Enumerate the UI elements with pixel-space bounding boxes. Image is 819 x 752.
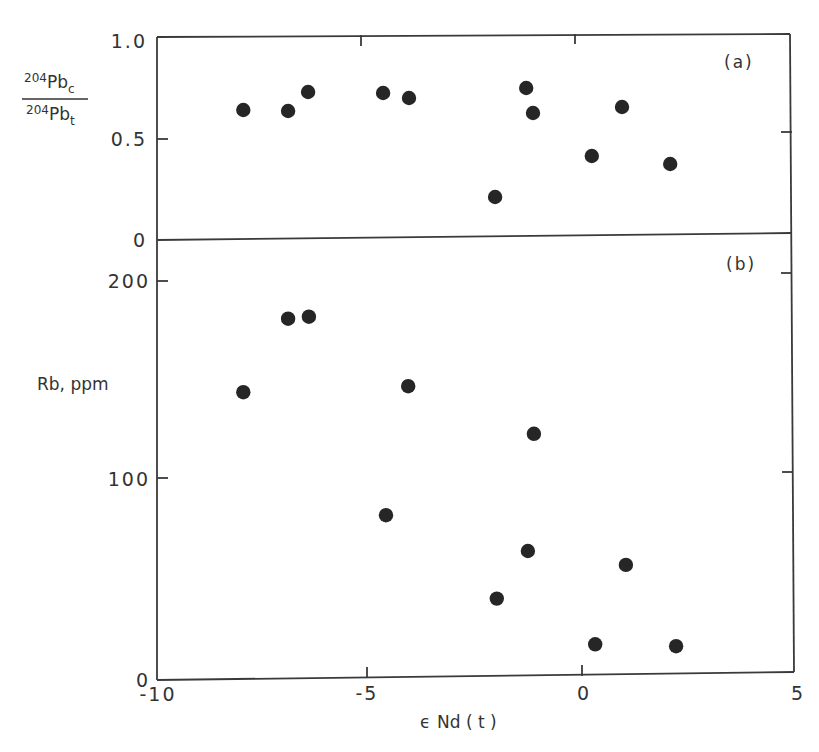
panel-b-point xyxy=(521,544,535,558)
plot-frame xyxy=(157,34,794,680)
x-tick-5: 5 xyxy=(791,682,805,704)
numerator: 204Pbc xyxy=(24,71,75,96)
panel-b-point xyxy=(302,310,316,324)
bottom-border xyxy=(157,672,794,680)
y-tick-200: 200 xyxy=(108,270,150,292)
top-border xyxy=(157,34,790,37)
panel-a-tag: (a) xyxy=(724,52,754,72)
panel-b-point xyxy=(401,379,415,393)
x-tick-minus-10: -10 xyxy=(139,683,176,705)
panel-b-point xyxy=(281,312,295,326)
panel-b-point xyxy=(490,591,504,605)
y-tick-0: 0 xyxy=(133,229,147,251)
panel-a-point xyxy=(402,91,416,105)
figure: 1.0 0.5 0 204Pbc 204Pbt 200 100 0 Rb, pp… xyxy=(0,0,819,752)
y-tick-1-0: 1.0 xyxy=(111,30,147,52)
panel-b-point xyxy=(527,427,541,441)
panel-b-point xyxy=(236,385,250,399)
panel-a-y-tick-labels: 1.0 0.5 0 xyxy=(111,30,147,251)
panel-a-point xyxy=(488,190,502,204)
panel-b-point xyxy=(379,508,393,522)
panel-a-point xyxy=(236,103,250,117)
x-axis-title: ϵ Nd ( t ) xyxy=(420,712,497,732)
x-tick-0: 0 xyxy=(577,682,591,704)
epsilon-symbol: ϵ xyxy=(420,712,430,732)
x-tick-labels: -10 -5 0 5 xyxy=(139,682,805,705)
denominator: 204Pbt xyxy=(26,103,75,128)
panel-b-point xyxy=(669,639,683,653)
panel-a-point xyxy=(615,100,629,114)
panel-a-point xyxy=(519,81,533,95)
panel-b-y-axis-title: Rb, ppm xyxy=(37,374,109,394)
panel-a-point xyxy=(663,157,677,171)
panel-b-point xyxy=(619,558,633,572)
panel-a-point xyxy=(301,85,315,99)
panel-b-tag: (b) xyxy=(726,254,756,274)
panel-a-point xyxy=(585,149,599,163)
y-tick-0-5: 0.5 xyxy=(111,128,147,150)
panel-b-y-tick-labels: 200 100 0 xyxy=(108,270,150,691)
panel-b-data-points xyxy=(236,310,683,654)
x-axis-title-text: Nd ( t ) xyxy=(437,712,497,732)
panel-divider xyxy=(157,233,791,240)
panel-a-point xyxy=(526,106,540,120)
y-tick-100: 100 xyxy=(108,468,150,490)
panel-a-point xyxy=(376,86,390,100)
axis-ticks xyxy=(157,34,793,678)
x-tick-minus-5: -5 xyxy=(356,682,379,704)
panel-a-data-points xyxy=(236,81,677,204)
panel-a-y-axis-title: 204Pbc 204Pbt xyxy=(22,71,88,128)
panel-b-point xyxy=(588,637,602,651)
right-border xyxy=(790,34,794,672)
panel-a-point xyxy=(281,104,295,118)
